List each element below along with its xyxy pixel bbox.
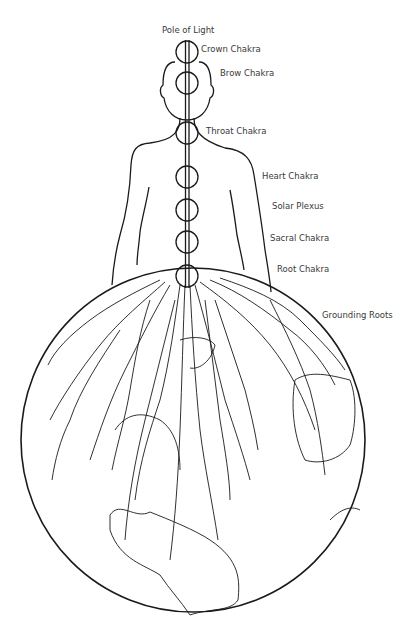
pole-of-light — [186, 40, 190, 288]
chakras — [176, 41, 198, 287]
crown-chakra-circle — [176, 41, 198, 63]
label-crown-chakra: Crown Chakra — [201, 44, 261, 54]
body-outline — [112, 62, 271, 292]
continents — [110, 338, 360, 615]
solar-plexus-circle — [176, 199, 198, 221]
label-sacral-chakra: Sacral Chakra — [270, 233, 329, 243]
earth-globe — [21, 268, 365, 612]
label-root-chakra: Root Chakra — [277, 264, 329, 274]
label-throat-chakra: Throat Chakra — [206, 126, 267, 136]
grounding-roots — [48, 278, 345, 560]
label-brow-chakra: Brow Chakra — [220, 68, 274, 78]
label-grounding-roots: Grounding Roots — [322, 310, 393, 320]
label-heart-chakra: Heart Chakra — [262, 171, 319, 181]
throat-chakra-circle — [176, 122, 198, 144]
sacral-chakra-circle — [176, 231, 198, 253]
brow-chakra-circle — [176, 72, 198, 94]
label-solar-plexus: Solar Plexus — [272, 201, 324, 211]
heart-chakra-circle — [176, 166, 198, 188]
label-pole-of-light: Pole of Light — [162, 25, 214, 35]
